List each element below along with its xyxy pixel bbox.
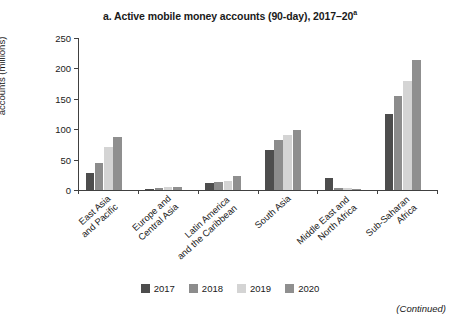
legend: 2017201820192020 [0, 283, 460, 294]
bar [325, 178, 334, 190]
y-axis-tick-mark [74, 68, 78, 69]
x-axis-category-label: South Asia [253, 194, 293, 232]
legend-item: 2018 [189, 283, 223, 294]
bar-group [205, 38, 242, 190]
legend-label: 2018 [202, 283, 223, 294]
bar-group [265, 38, 302, 190]
bar [265, 150, 274, 190]
legend-swatch [285, 284, 294, 293]
x-axis-category-label: Sub-SaharanAfrica [364, 194, 419, 246]
chart-title-text: a. Active mobile money accounts (90-day)… [103, 10, 353, 22]
y-axis-tick: 200 [78, 68, 79, 69]
legend-swatch [237, 284, 246, 293]
y-axis-tick-mark [74, 160, 78, 161]
bar [214, 182, 223, 191]
y-axis-tick-label: 50 [41, 154, 71, 165]
x-axis-tick-mark [317, 190, 318, 194]
bar [113, 137, 122, 190]
bar-group [86, 38, 123, 190]
y-axis-tick: 250 [78, 38, 79, 39]
x-axis-category-label-line: South Asia [253, 194, 293, 232]
bar [274, 140, 283, 190]
y-axis-tick-mark [74, 38, 78, 39]
bar [95, 163, 104, 190]
bar [205, 183, 214, 190]
plot-area: 050100150200250 [78, 38, 437, 190]
bar-group [385, 38, 422, 190]
y-axis-title-line-2: accounts (millions) [0, 0, 7, 152]
x-axis-tick-mark [78, 190, 79, 194]
bar [86, 173, 95, 190]
continued-note: (Continued) [396, 303, 446, 314]
y-axis-tick-label: 250 [41, 33, 71, 44]
legend-item: 2020 [285, 283, 319, 294]
legend-swatch [141, 284, 150, 293]
y-axis-tick-mark [74, 99, 78, 100]
x-axis-tick-mark [138, 190, 139, 194]
y-axis-tick: 50 [78, 160, 79, 161]
y-axis-tick: 100 [78, 129, 79, 130]
bar [293, 130, 302, 190]
x-axis-tick-mark [437, 190, 438, 194]
x-axis-category-label: Latin Americaand the Caribbean [168, 194, 239, 261]
bar [224, 181, 233, 190]
bar [334, 188, 343, 190]
bar [173, 187, 182, 190]
bar [164, 187, 173, 190]
bar [155, 188, 164, 190]
y-axis-tick-label: 0 [41, 185, 71, 196]
legend-item: 2019 [237, 283, 271, 294]
bar [385, 114, 394, 190]
x-axis-category-label: East Asiaand Pacific [72, 194, 120, 240]
y-axis-tick-label: 200 [41, 63, 71, 74]
bar [233, 176, 242, 190]
chart-title-footnote-marker: a [353, 9, 357, 16]
legend-label: 2020 [298, 283, 319, 294]
bar [403, 81, 412, 190]
bar [104, 147, 113, 190]
y-axis-tick-label: 100 [41, 124, 71, 135]
bar [283, 135, 292, 190]
legend-swatch [189, 284, 198, 293]
legend-label: 2019 [250, 283, 271, 294]
bar [352, 189, 361, 190]
y-axis-tick: 150 [78, 99, 79, 100]
bar [412, 60, 421, 190]
y-axis-tick-label: 150 [41, 93, 71, 104]
x-axis-tick-mark [198, 190, 199, 194]
chart-title: a. Active mobile money accounts (90-day)… [0, 9, 460, 22]
bar [145, 189, 154, 190]
x-axis-category-label: Middle East andNorth Africa [295, 194, 359, 254]
bar-group [145, 38, 182, 190]
legend-label: 2017 [154, 283, 175, 294]
x-axis-tick-mark [258, 190, 259, 194]
x-axis-category-label: Europe andCentral Asia [129, 194, 180, 243]
legend-item: 2017 [141, 283, 175, 294]
bar [343, 188, 352, 190]
y-axis-tick-mark [74, 129, 78, 130]
bar-group [325, 38, 362, 190]
x-axis-tick-mark [377, 190, 378, 194]
bar [394, 96, 403, 190]
